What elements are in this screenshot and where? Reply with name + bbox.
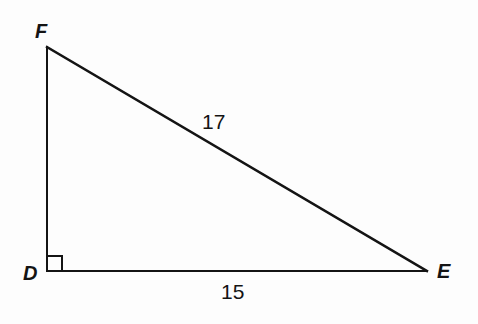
vertex-label-d: D — [23, 263, 37, 283]
side-length-hypotenuse: 17 — [202, 111, 225, 132]
side-length-base: 15 — [221, 281, 244, 302]
vertex-label-e: E — [437, 261, 450, 281]
right-triangle-figure: F D E 17 15 — [0, 0, 478, 324]
segment-FE — [47, 47, 427, 271]
triangle-drawing — [0, 0, 478, 324]
vertex-label-f: F — [35, 21, 47, 41]
right-angle-marker-icon — [47, 256, 62, 271]
